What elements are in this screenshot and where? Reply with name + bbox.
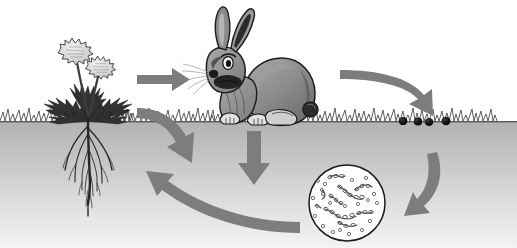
arrow-plant-to-rabbit bbox=[137, 68, 190, 91]
rabbit bbox=[182, 7, 318, 126]
plant-leaves bbox=[44, 84, 132, 124]
diagram-canvas bbox=[0, 0, 517, 248]
dandelion-flower-head bbox=[58, 38, 116, 79]
arrow-rabbit-to-droppings bbox=[340, 70, 433, 116]
nutrient-cycle-diagram: Nutrient cycle: plant to rabbit to dropp… bbox=[0, 0, 517, 248]
decomposer-bacteria-dish bbox=[309, 165, 385, 241]
